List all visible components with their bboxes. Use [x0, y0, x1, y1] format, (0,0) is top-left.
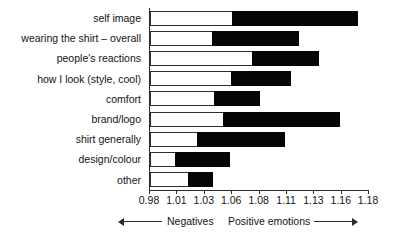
bar-segment-positive-emotions [223, 112, 340, 127]
y-axis-label-design-colour: design/colour [79, 149, 141, 169]
y-axis-label-shirt-generally: shirt generally [76, 129, 141, 149]
y-axis-label-other: other [117, 170, 141, 190]
positive-emotions-caption: Positive emotions [228, 214, 310, 228]
bar-row [150, 69, 369, 89]
y-axis-label-brand-logo: brand/logo [91, 109, 141, 129]
bar-row [150, 170, 369, 190]
x-axis-tick-label: 1.06 [221, 194, 241, 206]
x-axis-tick-label: 1.16 [331, 194, 351, 206]
y-axis-label-wearing-the-shirt: wearing the shirt – overall [21, 28, 141, 48]
y-axis-label-peoples-reactions: people's reactions [57, 48, 141, 68]
chart-container: self image wearing the shirt – overall p… [0, 0, 406, 242]
bar-segment-positive-emotions [212, 31, 299, 46]
bar-segment-negatives [150, 132, 197, 147]
negatives-caption: Negatives [167, 214, 214, 228]
bar-segment-positive-emotions [214, 91, 260, 106]
y-axis-category-labels: self image wearing the shirt – overall p… [0, 8, 145, 190]
bar-segment-positive-emotions [252, 51, 319, 66]
bar-row [150, 109, 369, 129]
bar-segment-positive-emotions [231, 71, 291, 86]
right-arrow-icon [352, 218, 358, 226]
bar-segment-negatives [150, 152, 175, 167]
bar-segment-positive-emotions [175, 152, 230, 167]
bar-other [150, 172, 213, 187]
x-axis-tick-label: 1.13 [303, 194, 323, 206]
bar-peoples-reactions [150, 51, 319, 66]
bar-comfort [150, 91, 260, 106]
bar-brand-logo [150, 112, 340, 127]
bar-row [150, 28, 369, 48]
bar-segment-negatives [150, 11, 232, 26]
bar-self-image [150, 11, 358, 26]
bar-segment-positive-emotions [188, 172, 213, 187]
bar-row [150, 89, 369, 109]
axis-caption: Negatives Positive emotions [0, 214, 406, 234]
bar-row [150, 149, 369, 169]
bar-segment-positive-emotions [197, 132, 285, 147]
x-axis-tick-label: 0.98 [139, 194, 159, 206]
bar-segment-negatives [150, 172, 188, 187]
x-axis-tick-label: 1.03 [194, 194, 214, 206]
y-axis-label-how-i-look: how I look (style, cool) [37, 69, 141, 89]
bar-design-colour [150, 152, 230, 167]
y-axis-label-self-image: self image [93, 8, 141, 28]
x-axis-tick-label: 1.18 [358, 194, 378, 206]
bar-segment-negatives [150, 31, 212, 46]
bar-shirt-generally [150, 132, 285, 147]
x-axis-tick-label: 1.11 [276, 194, 296, 206]
bar-row [150, 129, 369, 149]
right-arrow-line [314, 221, 352, 222]
bar-segment-positive-emotions [232, 11, 358, 26]
plot-area [149, 8, 369, 190]
x-axis-tick-label: 1.08 [248, 194, 268, 206]
bar-segment-negatives [150, 112, 223, 127]
bar-segment-negatives [150, 91, 214, 106]
bar-wearing-the-shirt [150, 31, 299, 46]
bar-segment-negatives [150, 71, 231, 86]
bar-segment-negatives [150, 51, 252, 66]
bar-row [150, 48, 369, 68]
bar-row [150, 8, 369, 28]
bar-how-i-look [150, 71, 291, 86]
x-axis-tick-label: 1.01 [166, 194, 186, 206]
y-axis-label-comfort: comfort [106, 89, 141, 109]
left-arrow-line [124, 221, 162, 222]
